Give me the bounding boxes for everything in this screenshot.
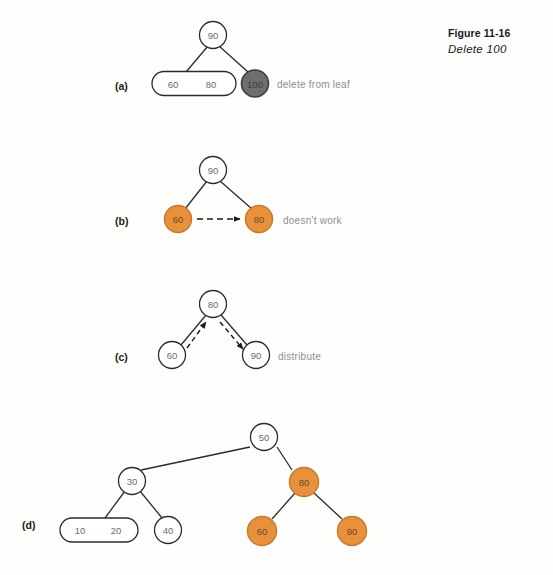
node-d-leaf-10-20: 10 20 — [60, 518, 138, 542]
node-d-80-value: 80 — [299, 477, 310, 488]
edge-c-80-to-60 — [181, 315, 206, 345]
node-a-leaf-100-value: 100 — [247, 79, 263, 90]
edge-50-to-30 — [141, 447, 250, 470]
node-d-root-50: 50 — [251, 424, 278, 451]
node-a-leaf-60-80: 60 80 — [152, 72, 236, 96]
edge-b-90-to-80 — [220, 181, 252, 209]
edge-90-to-60-80 — [186, 46, 208, 72]
node-a-root-90-value: 90 — [208, 30, 219, 41]
node-d-80: 80 — [290, 468, 319, 497]
edge-30-to-40 — [140, 491, 162, 518]
node-d-leaf-40: 40 — [155, 517, 182, 544]
node-d-leaf-60: 60 — [248, 517, 277, 546]
figure-page: Figure 11-16 Delete 100 (a) (b) (c) (d) … — [0, 0, 553, 575]
node-c-leaf-60: 60 — [159, 342, 186, 369]
node-b-leaf-80: 80 — [246, 206, 273, 233]
node-c-root-80: 80 — [200, 291, 227, 318]
edge-80-to-90 — [314, 493, 342, 519]
node-d-30-value: 30 — [127, 476, 138, 487]
panel-d-graph: 50 30 80 10 20 40 — [60, 424, 367, 546]
node-b-leaf-80-value: 80 — [254, 214, 265, 225]
panel-c-graph: 80 60 90 — [159, 291, 270, 369]
node-b-root-90: 90 — [200, 157, 227, 184]
node-c-leaf-90: 90 — [243, 342, 270, 369]
node-b-root-90-value: 90 — [208, 165, 219, 176]
node-d-leaf-60-value: 60 — [257, 526, 268, 537]
node-a-leaf-100-deleted: 100 — [242, 70, 269, 97]
node-a-root-90: 90 — [200, 22, 227, 49]
edge-50-to-80 — [277, 447, 292, 470]
node-a-leaf-value-80: 80 — [206, 79, 217, 90]
edge-80-to-60 — [272, 493, 295, 519]
node-d-leaf-value-20: 20 — [111, 525, 122, 536]
node-d-leaf-90: 90 — [338, 517, 367, 546]
edge-90-to-100 — [219, 46, 248, 72]
node-b-leaf-60-value: 60 — [173, 214, 184, 225]
node-d-30: 30 — [119, 468, 146, 495]
panel-b-graph: 90 60 80 — [165, 157, 273, 233]
node-d-leaf-90-value: 90 — [347, 526, 358, 537]
node-d-leaf-40-value: 40 — [163, 525, 174, 536]
node-b-leaf-60: 60 — [165, 206, 192, 233]
btree-figure-artwork: 90 60 80 100 90 60 — [0, 0, 553, 575]
node-a-leaf-value-60: 60 — [168, 79, 179, 90]
node-d-root-50-value: 50 — [259, 432, 270, 443]
node-c-leaf-90-value: 90 — [251, 350, 262, 361]
node-c-leaf-60-value: 60 — [167, 350, 178, 361]
node-c-root-80-value: 80 — [208, 299, 219, 310]
edge-30-to-10-20 — [105, 491, 125, 518]
edge-b-90-to-60 — [185, 181, 207, 209]
node-d-leaf-value-10: 10 — [75, 525, 86, 536]
edge-c-80-to-90 — [221, 315, 247, 345]
panel-a-graph: 90 60 80 100 — [152, 22, 269, 98]
